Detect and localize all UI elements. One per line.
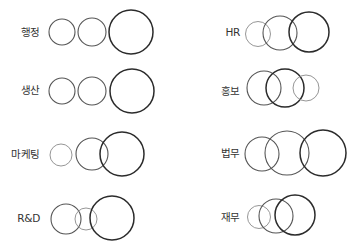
venn-circle-1 <box>49 19 75 45</box>
department-label: 행정 <box>21 26 40 38</box>
department-group: R&D <box>17 196 134 240</box>
venn-circle-1 <box>50 144 72 166</box>
venn-circle-1 <box>51 204 81 234</box>
diagram-groups: 행정생산마케팅R&DHR홍보법무재무 <box>11 10 346 240</box>
venn-circle-2 <box>259 199 293 233</box>
department-group: 재무 <box>221 195 315 235</box>
department-label: 재무 <box>221 211 241 223</box>
department-group: 홍보 <box>221 69 319 107</box>
venn-circle-3 <box>275 195 315 235</box>
department-group: 마케팅 <box>11 132 144 176</box>
department-group: 행정 <box>21 10 153 54</box>
department-group: 생산 <box>21 69 154 113</box>
department-label: 법무 <box>221 147 241 159</box>
venn-circle-3 <box>293 75 319 101</box>
department-label: 마케팅 <box>11 148 40 160</box>
department-label: 홍보 <box>221 85 241 97</box>
department-circle-diagram: 행정생산마케팅R&DHR홍보법무재무 <box>0 0 359 252</box>
department-group: HR <box>225 12 329 52</box>
venn-circle-1 <box>245 137 279 171</box>
department-label: R&D <box>17 212 40 224</box>
venn-circle-3 <box>289 12 329 52</box>
department-label: HR <box>225 26 240 38</box>
venn-circle-3 <box>109 10 153 54</box>
venn-circle-2 <box>78 77 106 105</box>
venn-circle-3 <box>300 130 346 176</box>
venn-circle-2 <box>78 18 106 46</box>
department-label: 생산 <box>21 84 41 96</box>
venn-circle-3 <box>110 69 154 113</box>
venn-circle-1 <box>247 71 281 105</box>
venn-circle-1 <box>49 78 75 104</box>
department-group: 법무 <box>221 130 346 176</box>
venn-circle-2 <box>75 208 97 230</box>
venn-circle-3 <box>100 132 144 176</box>
venn-circle-2 <box>266 69 304 107</box>
venn-circle-2 <box>265 131 309 175</box>
